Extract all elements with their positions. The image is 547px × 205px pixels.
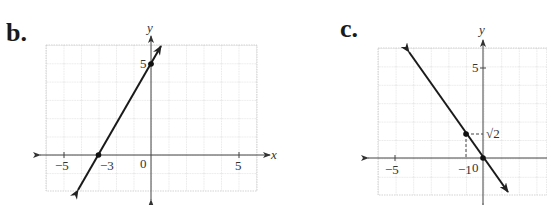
tick-b-y5: 5 [140,56,147,71]
point-c-neg1-sqrt2 [463,131,469,137]
tick-b-origin: 0 [140,156,147,171]
tick-c-neg5: −5 [385,162,399,177]
graph-c: y −5 −1 0 5 √2 [368,22,547,204]
y-axis-label-b: y [145,20,153,35]
point-c-origin [480,155,486,161]
graph-b: x y −5 −3 0 5 5 [40,20,277,200]
graphs-canvas: x y −5 −3 0 5 5 y −5 −1 0 5 √2 [0,0,547,205]
tick-b-neg3: −3 [100,158,114,173]
tick-b-5: 5 [235,158,242,173]
tick-c-sqrt2: √2 [486,126,500,141]
x-axis-label-b: x [270,147,277,162]
tick-c-neg1: −1 [458,162,472,177]
point-b-x-intercept [96,152,102,158]
point-b-y-intercept [148,61,154,67]
tick-c-origin: 0 [472,160,479,175]
y-axis-label-c: y [477,22,485,37]
tick-c-y5: 5 [472,60,479,75]
tick-b-neg5: −5 [55,158,69,173]
